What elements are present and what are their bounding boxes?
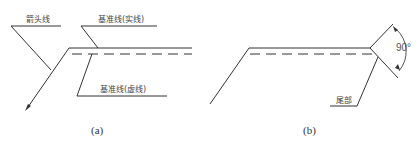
weld-symbol-diagram xyxy=(0,0,419,147)
reference-dashed-label: 基准线(虚线) xyxy=(100,85,146,95)
arrowhead-icon xyxy=(25,104,31,111)
figure-b-caption: (b) xyxy=(303,124,316,136)
angle-arrowhead-top-icon xyxy=(393,26,398,32)
tail-fork-upper xyxy=(370,24,393,48)
arrow-line-pointer xyxy=(11,26,51,70)
tail-fork-lower xyxy=(370,48,398,78)
solid-label-pointer xyxy=(81,26,98,48)
angle-label: 90° xyxy=(396,42,411,53)
arrow-line-label: 箭头线 xyxy=(26,15,50,25)
tail-label-pointer xyxy=(357,57,378,106)
reference-solid-label: 基准线(实线) xyxy=(98,15,144,25)
figure-b xyxy=(210,24,406,106)
tail-label: 尾部 xyxy=(336,96,352,106)
dashed-label-pointer xyxy=(77,54,92,96)
arrow-line xyxy=(28,48,69,107)
figure-a-caption: (a) xyxy=(91,124,103,136)
arrow-line xyxy=(210,48,249,104)
angle-arrowhead-bottom-icon xyxy=(395,64,400,70)
